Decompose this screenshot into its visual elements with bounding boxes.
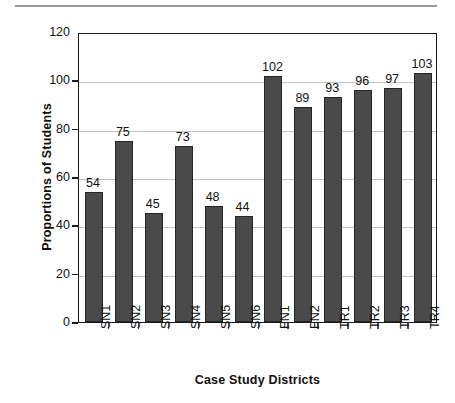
x-tick-label-SN3: SN3: [159, 305, 173, 329]
y-tick-label-80: 80: [30, 122, 70, 136]
x-tick-label-SN5: SN5: [219, 305, 233, 329]
y-tick-label-100: 100: [30, 73, 70, 87]
bar-value-label-SN2: 75: [103, 125, 143, 139]
y-tick-label-20: 20: [30, 267, 70, 281]
bar-TR2[interactable]: [354, 90, 372, 322]
x-tick-label-TR3: TR3: [398, 305, 412, 329]
bar-TR4[interactable]: [414, 73, 432, 322]
x-tick-label-SN2: SN2: [129, 305, 143, 329]
y-tick-label-0: 0: [30, 315, 70, 329]
chart-page: Proportions of Students 020406080100120 …: [0, 0, 455, 403]
header-divider-rule: [15, 5, 437, 7]
bar-SN1[interactable]: [85, 192, 103, 323]
bar-TR3[interactable]: [384, 88, 402, 322]
bar-FN1[interactable]: [264, 76, 282, 323]
y-tick-label-60: 60: [30, 170, 70, 184]
bar-value-label-FN1: 102: [252, 60, 292, 74]
x-tick-label-SN1: SN1: [99, 305, 113, 329]
x-axis-title: Case Study Districts: [78, 373, 437, 387]
x-tick-label-SN4: SN4: [189, 305, 203, 329]
y-tick-label-40: 40: [30, 218, 70, 232]
bar-value-label-SN4: 73: [163, 130, 203, 144]
bar-value-label-SN3: 45: [133, 197, 173, 211]
x-tick-label-TR2: TR2: [368, 305, 382, 329]
x-tick-label-TR1: TR1: [338, 305, 352, 329]
bar-TR1[interactable]: [324, 97, 342, 322]
bar-value-label-SN6: 44: [223, 200, 263, 214]
x-tick-label-SN6: SN6: [249, 305, 263, 329]
y-tick-label-120: 120: [30, 25, 70, 39]
x-tick-label-TR4: TR4: [428, 305, 442, 329]
bar-SN2[interactable]: [115, 141, 133, 322]
bar-value-label-TR3: 97: [372, 72, 412, 86]
bar-value-label-TR4: 103: [402, 57, 442, 71]
x-tick-label-FN1: FN1: [278, 305, 292, 329]
x-tick-label-FN2: FN2: [308, 305, 322, 329]
bar-FN2[interactable]: [294, 107, 312, 322]
bar-SN4[interactable]: [175, 146, 193, 322]
bar-value-label-SN1: 54: [73, 176, 113, 190]
